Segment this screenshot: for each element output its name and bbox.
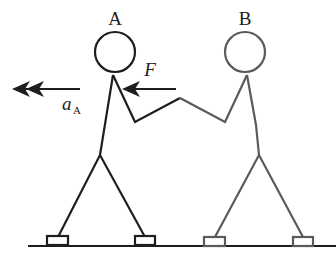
person-a-label: A (108, 8, 122, 29)
acceleration-subscript: A (73, 104, 81, 116)
diagram-canvas: A B F a A (0, 0, 336, 267)
person-a-arm (113, 75, 180, 122)
person-b (180, 32, 313, 246)
person-b-right-foot (293, 237, 313, 246)
person-b-left-foot (204, 237, 225, 246)
person-a (47, 32, 180, 245)
force-label: F (143, 59, 156, 80)
person-a-left-foot (47, 236, 68, 245)
person-a-head (95, 32, 135, 72)
person-a-legs (58, 155, 145, 237)
acceleration-symbol: a (62, 93, 72, 114)
force-arrow (122, 81, 176, 97)
person-b-head (225, 32, 265, 72)
acceleration-label: a (62, 93, 72, 114)
person-b-arm (180, 75, 247, 122)
person-b-legs (215, 155, 303, 237)
person-b-body (247, 75, 259, 155)
person-a-body (100, 75, 113, 155)
person-b-label: B (239, 8, 252, 29)
person-a-right-foot (135, 236, 155, 245)
